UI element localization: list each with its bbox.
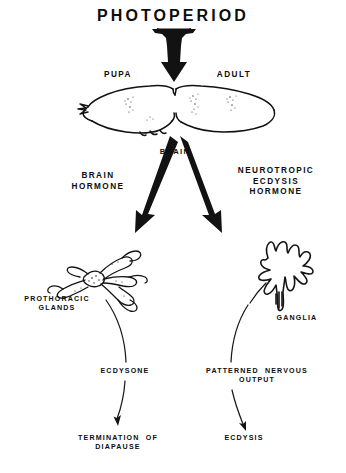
hormone-label-brain-hormone: BRAIN HORMONE bbox=[72, 171, 125, 192]
photoperiod-arrow bbox=[152, 29, 196, 83]
insect-body-outline bbox=[78, 86, 275, 136]
hormone-label-ecdysone: ECDYSONE bbox=[100, 367, 149, 376]
outcome-label-ecdysis: ECDYSIS bbox=[224, 434, 263, 443]
outcome-label-termination-of-diapause: TERMINATION OF DIAPAUSE bbox=[78, 434, 158, 452]
page-title: PHOTOPERIOD bbox=[97, 6, 249, 26]
termination-of-diapause-arrow bbox=[114, 381, 126, 426]
stage-label-pupa: PUPA bbox=[104, 70, 132, 81]
ganglia-illustration bbox=[250, 242, 313, 311]
photoperiod-endocrine-diagram: PHOTOPERIOD PUPA ADULT BRAIN BRAIN HORMO… bbox=[0, 0, 346, 473]
organ-label-brain: BRAIN bbox=[160, 147, 191, 157]
diagram-artwork bbox=[0, 0, 346, 473]
ecdysone-curve-arrow bbox=[106, 300, 126, 362]
hormone-label-neurotropic-ecdysis-hormone: NEUROTROPIC ECDYSIS HORMONE bbox=[238, 166, 314, 198]
organ-label-prothoracic-glands: PROTHORACIC GLANDS bbox=[24, 295, 89, 313]
patterned-nervous-output-curve-arrow bbox=[231, 305, 248, 362]
prothoracic-glands-stipple bbox=[74, 261, 124, 296]
stage-label-adult: ADULT bbox=[217, 70, 251, 81]
insect-body-stipple bbox=[125, 94, 237, 121]
signal-label-patterned-nervous-output: PATTERNED NERVOUS OUTPUT bbox=[206, 367, 308, 385]
organ-label-ganglia: GANGLIA bbox=[277, 314, 318, 323]
ecdysis-arrow bbox=[232, 390, 246, 431]
